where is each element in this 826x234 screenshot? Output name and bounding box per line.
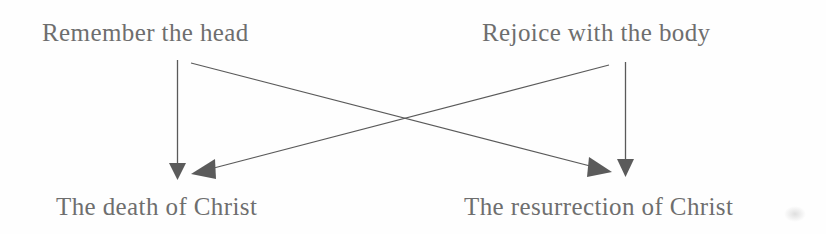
arrow-remember-head-to-resurrection-of-christ	[191, 63, 612, 177]
arrowhead-down-right	[617, 159, 634, 177]
arrowhead-down-right-diagonal	[587, 157, 612, 177]
arrow-remember-head-to-death-of-christ	[169, 60, 186, 180]
node-label-the-death-of-christ: The death of Christ	[56, 194, 257, 219]
node-label-the-resurrection-of-christ: The resurrection of Christ	[464, 194, 733, 219]
arrowhead-down-left	[169, 163, 186, 180]
node-label-remember-the-head: Remember the head	[42, 20, 249, 45]
node-label-rejoice-with-the-body: Rejoice with the body	[482, 20, 711, 45]
arrow-rejoice-body-to-death-of-christ	[191, 65, 609, 179]
arrow-shaft-diagonal-down-right	[191, 63, 594, 167]
arrow-rejoice-body-to-resurrection-of-christ	[617, 62, 634, 177]
arrowhead-down-left-diagonal	[191, 159, 216, 179]
arrow-shaft-diagonal-down-left	[210, 65, 609, 169]
diagram-canvas: Remember the head Rejoice with the body …	[0, 0, 826, 234]
scan-smudge-artifact	[784, 206, 806, 222]
